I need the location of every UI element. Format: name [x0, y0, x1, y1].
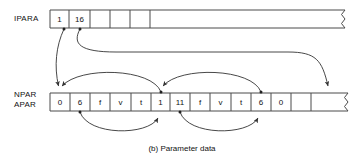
array-npar-apar: NPAR APAR 0 6 f v t 1 11: [14, 90, 348, 111]
pointer-source-dot: [63, 28, 66, 31]
pointer-npar-11-forward-to-6: [180, 112, 258, 131]
npar-cell: 6: [259, 98, 264, 107]
array-apar-label: APAR: [14, 100, 36, 109]
figure-caption: (b) Parameter data: [148, 144, 216, 153]
array-ipara-label: IPARA: [14, 14, 39, 23]
npar-cell: v: [119, 98, 123, 107]
pointer-source-dot: [79, 28, 82, 31]
ipara-cell: 16: [75, 15, 84, 24]
figure-container: IPARA 1 16 NPAR APAR: [0, 0, 364, 160]
array-ipara: IPARA 1 16: [14, 10, 345, 28]
npar-cell: 0: [279, 98, 284, 107]
pointer-npar-6-forward-to-1: [80, 112, 158, 131]
array-ipara-frame: [50, 10, 345, 28]
pointer-source-dot: [179, 111, 182, 114]
pointer-ipara-16-to-npar-tail: [77, 29, 328, 86]
npar-cell: f: [99, 98, 102, 107]
pointer-npar-6-back-to-1: [163, 72, 261, 92]
parameter-data-diagram: IPARA 1 16 NPAR APAR: [0, 0, 364, 160]
pointer-ipara-1-to-npar-0: [56, 29, 64, 86]
array-npar-label: NPAR: [14, 90, 36, 99]
npar-cell: 6: [78, 98, 83, 107]
npar-cell: v: [219, 98, 223, 107]
npar-cell: 0: [58, 98, 63, 107]
pointer-arrows: [56, 28, 328, 131]
npar-cell: 1: [158, 98, 163, 107]
npar-cell: t: [240, 98, 243, 107]
pointer-source-dot: [79, 111, 82, 114]
pointer-npar-1-back-to-0: [62, 72, 161, 92]
pointer-source-dot: [260, 91, 263, 94]
npar-cell: t: [140, 98, 143, 107]
ipara-cell: 1: [57, 15, 62, 24]
npar-cell: 11: [176, 98, 185, 107]
pointer-source-dot: [160, 91, 163, 94]
npar-cell: f: [199, 98, 202, 107]
